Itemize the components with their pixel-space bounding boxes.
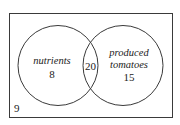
count-produced-tomatoes-only: 15 bbox=[124, 71, 136, 83]
set-label-produced: produced bbox=[108, 47, 149, 58]
venn-diagram: nutrients 8 20 produced tomatoes 15 9 bbox=[0, 0, 180, 125]
count-universe-outside: 9 bbox=[14, 102, 20, 114]
set-label-tomatoes: tomatoes bbox=[110, 59, 148, 70]
count-intersection: 20 bbox=[85, 60, 97, 72]
set-label-nutrients: nutrients bbox=[33, 55, 70, 66]
count-nutrients-only: 8 bbox=[49, 68, 55, 80]
